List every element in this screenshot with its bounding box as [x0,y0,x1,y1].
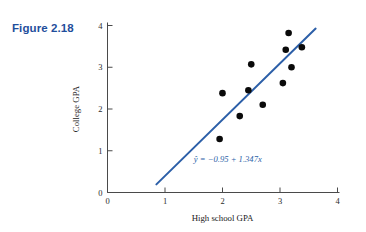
regression-equation-annotation: ŷ = −0.95 + 1.347x [193,154,262,164]
data-point [219,90,226,97]
data-point [285,30,292,37]
data-point [280,80,287,87]
y-tick-label: 2 [98,104,102,114]
axis-ticks [108,26,338,193]
data-point [259,102,266,109]
x-tick-label: 3 [278,196,282,206]
y-tick-label: 3 [98,62,102,72]
data-point [288,64,295,71]
y-axis-title: College GPA [71,85,81,132]
y-tick-label: 0 [98,188,102,198]
x-axis-title: High school GPA [192,213,254,223]
data-point [299,44,306,51]
data-point [248,61,255,68]
plot-svg: 0123401234 ŷ = −0.95 + 1.347x High schoo… [0,0,366,232]
data-point [216,136,223,143]
y-tick-label: 4 [98,21,103,31]
scatter-plot: 0123401234 ŷ = −0.95 + 1.347x High schoo… [0,0,366,232]
x-tick-label: 0 [105,196,109,206]
equation-label: ŷ = −0.95 + 1.347x [193,154,262,164]
figure-container: Figure 2.18 0123401234 ŷ = −0.95 + 1.347… [0,0,366,232]
x-tick-label: 4 [335,196,340,206]
x-tick-label: 2 [220,196,224,206]
data-point [245,87,252,94]
x-tick-label: 1 [163,196,167,206]
data-points [216,30,305,143]
data-point [282,46,289,53]
y-tick-label: 1 [98,146,102,156]
data-point [236,113,243,120]
